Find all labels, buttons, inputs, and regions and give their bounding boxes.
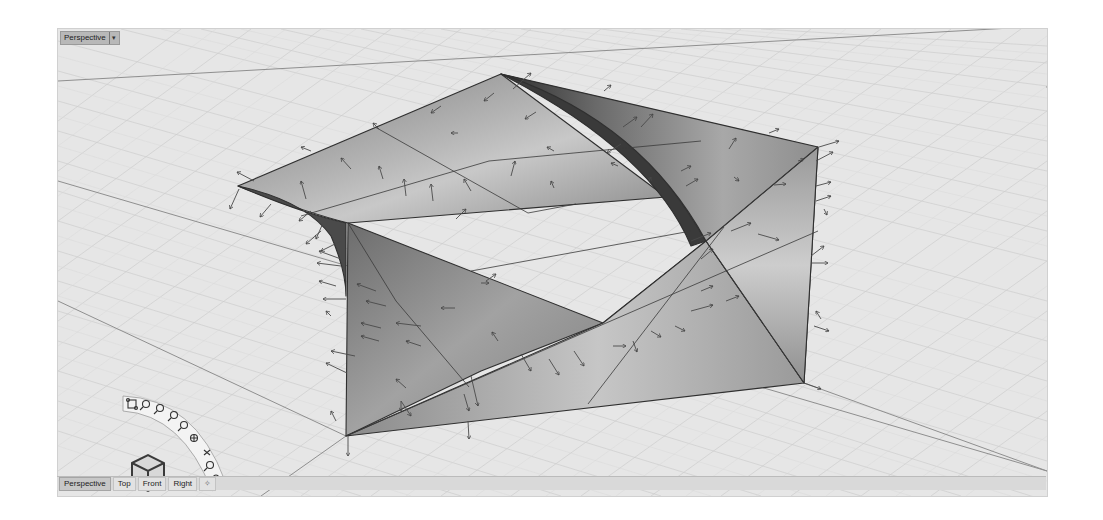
pushpin-compass-icon	[1043, 79, 1048, 124]
add-viewport-icon[interactable]: ✧	[199, 477, 216, 491]
perspective-viewport[interactable]: Perspective ▾	[57, 28, 1048, 497]
tab-front[interactable]: Front	[138, 477, 167, 491]
tab-perspective[interactable]: Perspective	[59, 477, 111, 491]
tab-right[interactable]: Right	[168, 477, 197, 491]
viewport-title-menu[interactable]: Perspective ▾	[60, 31, 120, 45]
viewport-title-label: Perspective	[64, 32, 106, 44]
viewport-tabs: Perspective Top Front Right ✧	[57, 476, 1046, 490]
target-icon[interactable]	[190, 434, 198, 442]
tab-top[interactable]: Top	[113, 477, 136, 491]
chevron-down-icon[interactable]: ▾	[109, 32, 116, 44]
